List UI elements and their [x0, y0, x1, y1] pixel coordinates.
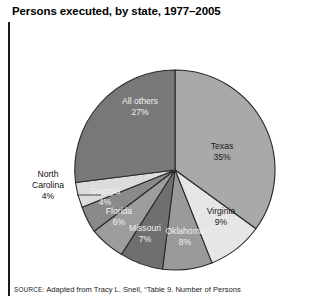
pie-label-florida-name: Florida	[106, 206, 132, 216]
figure-title: Persons executed, by state, 1977–2005	[12, 5, 221, 17]
pie-label-all-others-value: 27%	[131, 107, 149, 117]
pie-label-missouri-value: 7%	[139, 234, 152, 244]
figure-source-note: SOURCE: Adapted from Tracy L. Snell, “Ta…	[14, 285, 314, 294]
pie-label-texas-value: 35%	[213, 152, 231, 162]
source-text: Adapted from Tracy L. Snell, “Table 9. N…	[45, 285, 241, 294]
pie-slice-all-others[interactable]	[75, 70, 175, 183]
pie-label-florida-value: 6%	[113, 217, 126, 227]
pie-label-oklahoma-name: Oklahoma	[165, 226, 204, 236]
pie-label-oklahoma-value: 8%	[179, 237, 192, 247]
pie-label-texas-name: Texas	[211, 141, 233, 151]
pie-label-virginia-name: Virginia	[207, 206, 236, 216]
pie-label-north-carolina-line1: North	[37, 169, 58, 179]
pie-chart-svg: Texas 35% All others 27% Virginia 9% Okl…	[0, 28, 318, 278]
pie-chart: Texas 35% All others 27% Virginia 9% Okl…	[0, 28, 318, 278]
pie-label-north-carolina-line2: Carolina	[32, 180, 64, 190]
pie-label-all-others-name: All others	[122, 96, 158, 106]
pie-label-georgia-name: Georgia	[90, 186, 121, 196]
figure-container: Persons executed, by state, 1977–2005 Te…	[0, 0, 318, 296]
pie-label-north-carolina-value: 4%	[42, 191, 55, 201]
pie-label-georgia-value: 4%	[99, 197, 112, 207]
pie-label-virginia-value: 9%	[215, 217, 228, 227]
source-prefix: SOURCE:	[14, 286, 45, 293]
pie-label-missouri-name: Missouri	[129, 223, 161, 233]
